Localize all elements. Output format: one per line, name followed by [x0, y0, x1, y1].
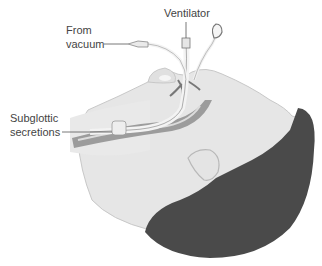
from-vacuum-label-line1: From: [66, 24, 92, 37]
vacuum-connector: [128, 41, 148, 47]
ventilator-connector: [182, 38, 190, 48]
nostril: [159, 75, 171, 81]
ventilator-label: Ventilator: [164, 7, 210, 20]
pilot-balloon: [212, 24, 222, 38]
subglottic-label-line1: Subglottic: [10, 112, 58, 125]
tube-cuff: [112, 121, 126, 135]
subglottic-label-line2: secretions: [10, 126, 60, 139]
medical-illustration: Ventilator From vacuum Subglottic secret…: [0, 0, 322, 266]
from-vacuum-label-line2: vacuum: [66, 38, 105, 51]
